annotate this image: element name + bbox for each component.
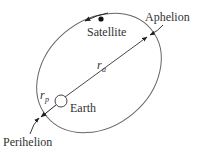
- direction-arrow-icon: [85, 13, 108, 21]
- orbit-diagram: Satellite Aphelion r a Earth r p Perihel…: [0, 0, 202, 153]
- perihelion-leader-line: [30, 118, 39, 134]
- svg-text:p: p: [44, 95, 49, 104]
- r-a-label: r a: [97, 58, 106, 74]
- satellite-label: Satellite: [87, 25, 126, 39]
- earth-circle: [55, 95, 67, 107]
- earth-label: Earth: [70, 101, 96, 115]
- apogee-radius-line: [65, 37, 147, 97]
- perihelion-label: Perihelion: [3, 135, 52, 149]
- satellite-dot: [98, 16, 103, 21]
- aphelion-label: Aphelion: [145, 10, 190, 24]
- r-p-label: r p: [40, 88, 49, 104]
- svg-text:a: a: [102, 65, 106, 74]
